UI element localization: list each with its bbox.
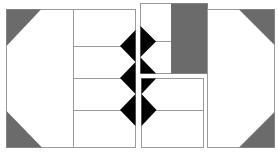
middle-top-gray-block — [171, 4, 208, 74]
diagram-canvas — [0, 0, 278, 152]
right-panel — [208, 10, 275, 148]
middle-top-panel — [141, 4, 208, 74]
middle-bottom-panel — [142, 79, 204, 148]
left-panel — [7, 10, 136, 148]
